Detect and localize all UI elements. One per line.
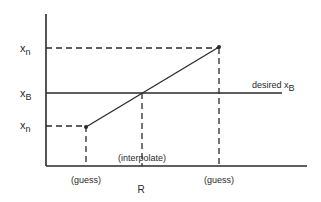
desired-xb-label: desired xB — [252, 80, 295, 93]
xn-upper-label: xn — [20, 42, 31, 57]
guess-left-label: (guess) — [71, 175, 101, 185]
lower-guess-point — [84, 125, 88, 129]
guess-right-label: (guess) — [204, 175, 234, 185]
interpolation-diagram: xn xB xn desired xB (guess) (interpolate… — [0, 0, 321, 202]
upper-guess-point — [217, 45, 221, 49]
x-axis-label: R — [137, 184, 144, 195]
xb-label: xB — [20, 87, 32, 102]
interpolate-label: (interpolate) — [118, 153, 166, 163]
secant-line — [86, 47, 219, 127]
xn-lower-label: xn — [20, 119, 31, 134]
